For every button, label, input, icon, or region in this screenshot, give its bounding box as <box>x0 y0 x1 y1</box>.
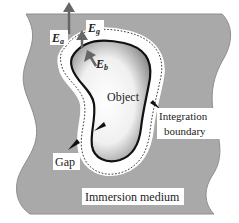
label-immersion-medium: Immersion medium <box>85 190 180 204</box>
diagram-canvas: Ea Eg Eb Object Integration boundary Gap… <box>0 0 239 223</box>
label-object: Object <box>107 90 140 104</box>
label-integration-boundary-2: boundary <box>164 125 206 137</box>
label-gap: Gap <box>55 155 75 169</box>
label-integration-boundary-1: Integration <box>159 110 208 122</box>
